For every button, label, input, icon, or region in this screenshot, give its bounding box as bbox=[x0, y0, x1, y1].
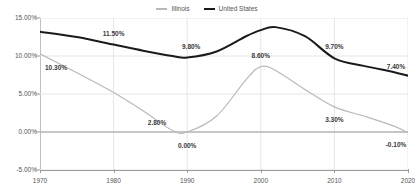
data-point-label: 9.70% bbox=[325, 44, 343, 51]
y-axis-tick-label: 15.00% bbox=[15, 15, 37, 22]
x-axis-tick-label: 2020 bbox=[401, 178, 415, 185]
legend-label: Illinois bbox=[171, 6, 189, 13]
y-axis-tick-label: 10.00% bbox=[15, 53, 37, 60]
x-axis-tick-label: 1990 bbox=[180, 178, 194, 185]
x-axis-tick-label: 1970 bbox=[33, 178, 47, 185]
legend-swatch-icon bbox=[204, 8, 215, 11]
data-point-label: 2.80% bbox=[148, 119, 166, 126]
legend-swatch-icon bbox=[156, 8, 167, 10]
legend-item-united-states[interactable]: United States bbox=[204, 6, 258, 13]
legend-item-illinois[interactable]: Illinois bbox=[156, 6, 189, 13]
y-axis-tick-label: 5.00% bbox=[19, 91, 37, 98]
chart-svg bbox=[40, 18, 408, 170]
y-axis-tick-label: 0.00% bbox=[19, 129, 37, 136]
data-point-label: 7.40% bbox=[387, 64, 405, 71]
data-point-label: 10.30% bbox=[45, 64, 67, 71]
x-axis-tick-label: 1980 bbox=[106, 178, 120, 185]
data-point-label: 3.30% bbox=[325, 117, 343, 124]
x-axis-tick-mark bbox=[408, 169, 409, 173]
y-axis: -5.00%0.00%5.00%10.00%15.00% bbox=[0, 0, 40, 191]
x-axis-tick-label: 2010 bbox=[327, 178, 341, 185]
data-point-label: 8.60% bbox=[252, 52, 270, 59]
chart-legend: IllinoisUnited States bbox=[0, 2, 414, 16]
x-axis-tick-label: 2000 bbox=[254, 178, 268, 185]
plot-area bbox=[40, 18, 408, 170]
data-point-label: 0.00% bbox=[178, 143, 196, 150]
y-axis-tick-label: -5.00% bbox=[16, 167, 37, 174]
data-point-label: -0.10% bbox=[386, 142, 407, 149]
data-point-label: 11.50% bbox=[103, 30, 125, 37]
data-point-label: 9.80% bbox=[182, 43, 200, 50]
series-line-united-states bbox=[40, 27, 408, 76]
legend-label: United States bbox=[219, 6, 258, 13]
